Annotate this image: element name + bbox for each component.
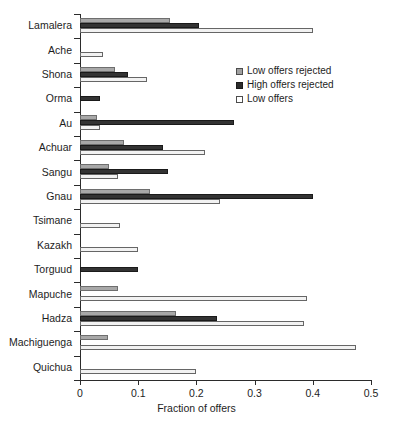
category-label: Lamalera	[0, 20, 72, 31]
bar-white	[80, 199, 220, 204]
y-tick	[74, 234, 80, 235]
y-tick	[74, 112, 80, 113]
x-tick	[255, 380, 256, 385]
x-axis-title: Fraction of offers	[0, 402, 393, 414]
category-label: Machiguenga	[0, 337, 72, 348]
category-label: Shona	[0, 69, 72, 80]
x-tick-label: 0.1	[118, 387, 158, 399]
y-tick	[74, 282, 80, 283]
category-label: Gnau	[0, 191, 72, 202]
x-tick-label: 0.5	[351, 387, 391, 399]
y-tick	[74, 38, 80, 39]
y-tick	[74, 63, 80, 64]
bar-white	[80, 321, 304, 326]
bar-black	[80, 267, 138, 272]
legend-swatch-icon-white	[236, 96, 243, 103]
category-label: Quichua	[0, 362, 72, 373]
bar-black	[80, 120, 234, 125]
x-tick	[138, 380, 139, 385]
legend: Low offers rejected High offers rejected…	[236, 64, 334, 106]
bar-gray	[80, 335, 108, 340]
bar-white	[80, 296, 307, 301]
category-label: Ache	[0, 45, 72, 56]
category-label: Au	[0, 118, 72, 129]
x-tick-label: 0.2	[176, 387, 216, 399]
x-tick-label: 0.3	[235, 387, 275, 399]
x-tick-label: 0.4	[293, 387, 333, 399]
x-tick	[313, 380, 314, 385]
bar-white	[80, 125, 100, 130]
bar-white	[80, 52, 103, 57]
y-tick	[74, 307, 80, 308]
legend-label: High offers rejected	[247, 78, 334, 92]
legend-label: Low offers	[247, 92, 293, 106]
y-tick	[74, 331, 80, 332]
legend-item-high-offers-rejected: High offers rejected	[236, 78, 334, 92]
legend-swatch-icon-black	[236, 82, 243, 89]
y-tick	[74, 356, 80, 357]
bar-white	[80, 223, 120, 228]
y-tick	[74, 160, 80, 161]
bar-black	[80, 96, 100, 101]
legend-item-low-offers-rejected: Low offers rejected	[236, 64, 334, 78]
legend-item-low-offers: Low offers	[236, 92, 334, 106]
x-tick	[371, 380, 372, 385]
category-label: Torguud	[0, 264, 72, 275]
x-tick	[80, 380, 81, 385]
y-tick	[74, 185, 80, 186]
bar-white	[80, 150, 205, 155]
y-tick	[74, 380, 80, 381]
x-axis-line	[80, 380, 372, 381]
legend-label: Low offers rejected	[247, 64, 331, 78]
legend-swatch-icon-gray	[236, 68, 243, 75]
bar-white	[80, 174, 118, 179]
y-tick	[74, 258, 80, 259]
bar-white	[80, 247, 138, 252]
x-tick-label: 0	[60, 387, 100, 399]
category-label: Sangu	[0, 167, 72, 178]
x-tick	[196, 380, 197, 385]
bar-white	[80, 77, 147, 82]
bar-gray	[80, 286, 118, 291]
y-tick	[74, 14, 80, 15]
bar-chart: LamaleraAcheShonaOrmaAuAchuarSanguGnauTs…	[0, 0, 393, 431]
category-label: Hadza	[0, 313, 72, 324]
category-label: Mapuche	[0, 289, 72, 300]
y-tick	[74, 209, 80, 210]
bar-white	[80, 28, 313, 33]
bar-white	[80, 369, 196, 374]
bar-white	[80, 345, 356, 350]
category-label: Orma	[0, 93, 72, 104]
category-label: Kazakh	[0, 240, 72, 251]
y-tick	[74, 136, 80, 137]
category-label: Achuar	[0, 142, 72, 153]
y-tick	[74, 87, 80, 88]
category-label: Tsimane	[0, 215, 72, 226]
